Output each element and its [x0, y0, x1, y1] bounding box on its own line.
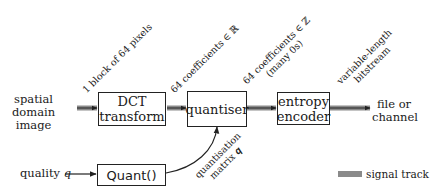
- output-label: file or channel: [372, 98, 416, 124]
- input-label: spatial domain image: [12, 93, 55, 132]
- legend-swatch: [338, 171, 362, 177]
- quantiser-block: quantiser: [187, 91, 247, 127]
- legend-label: signal track: [366, 168, 429, 181]
- entropy-encoder-block: entropy encoder: [277, 92, 330, 125]
- dct-transform-block: DCT transform: [98, 92, 166, 126]
- quant-function-block: Quant(): [97, 164, 166, 186]
- quality-label: quality q: [20, 167, 71, 180]
